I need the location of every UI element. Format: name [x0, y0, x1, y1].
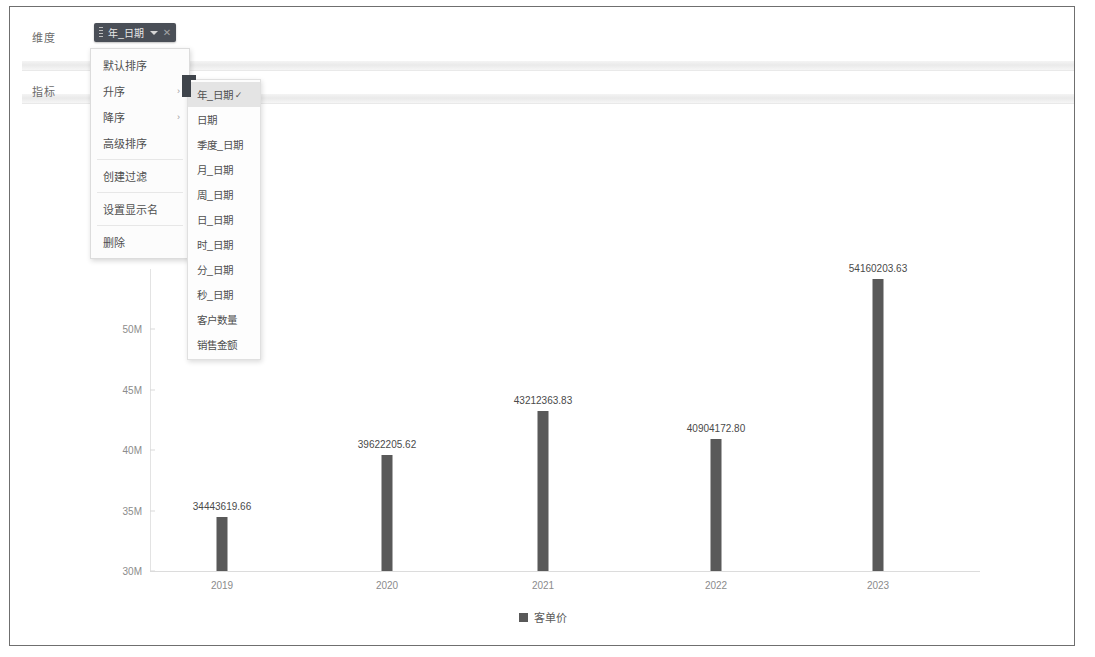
- submenu-item-label: 客户数量: [197, 312, 237, 327]
- menu-separator: [97, 159, 183, 160]
- y-axis-tick-label: 30M: [123, 566, 142, 577]
- check-icon: ✓: [235, 90, 243, 100]
- submenu-item[interactable]: 客户数量: [188, 307, 260, 332]
- x-axis-tick-label: 2023: [867, 580, 889, 591]
- y-axis-tick-label: 35M: [123, 505, 142, 516]
- metric-shelf-label: 指标: [32, 83, 55, 99]
- bar[interactable]: [538, 411, 549, 571]
- y-axis-tick-mark: [150, 571, 155, 572]
- submenu-item-label: 销售金额: [197, 337, 237, 352]
- x-axis-tick-label: 2020: [376, 580, 398, 591]
- submenu-item[interactable]: 季度_日期: [188, 132, 260, 157]
- menu-item[interactable]: 创建过滤: [91, 163, 189, 189]
- menu-item[interactable]: 默认排序: [91, 52, 189, 78]
- menu-item[interactable]: 高级排序: [91, 130, 189, 156]
- submenu-item-label: 日_日期: [197, 212, 233, 227]
- y-axis-tick-label: 40M: [123, 445, 142, 456]
- close-icon[interactable]: ✕: [163, 28, 171, 38]
- menu-item[interactable]: 删除: [91, 229, 189, 255]
- y-axis-tick-mark: [150, 450, 155, 451]
- bar[interactable]: [873, 279, 884, 571]
- dimension-shelf-label: 维度: [32, 29, 55, 45]
- submenu-item[interactable]: 日期: [188, 107, 260, 132]
- bar-value-label: 40904172.80: [687, 423, 745, 434]
- bar-value-label: 43212363.83: [514, 395, 572, 406]
- menu-item-label: 高级排序: [103, 135, 147, 151]
- y-axis-tick-mark: [150, 510, 155, 511]
- menu-item-label: 删除: [103, 234, 125, 250]
- submenu-item[interactable]: 日_日期: [188, 207, 260, 232]
- submenu-item-label: 秒_日期: [197, 287, 233, 302]
- x-axis-tick-label: 2019: [211, 580, 233, 591]
- y-axis-tick-label: 50M: [123, 324, 142, 335]
- submenu-item[interactable]: 周_日期: [188, 182, 260, 207]
- submenu-anchor-marker: [182, 75, 191, 97]
- dimension-field-chip[interactable]: 年_日期 ✕: [94, 23, 176, 42]
- bar[interactable]: [217, 517, 228, 571]
- chevron-right-icon: ›: [177, 112, 180, 122]
- drag-grip-icon[interactable]: [99, 27, 103, 38]
- menu-item-label: 降序: [103, 109, 125, 125]
- field-chip-label: 年_日期: [108, 25, 145, 40]
- submenu-item[interactable]: 秒_日期: [188, 282, 260, 307]
- x-axis-line: [150, 571, 980, 572]
- y-axis-tick-mark: [150, 389, 155, 390]
- field-context-menu[interactable]: 默认排序升序›降序›高级排序创建过滤设置显示名删除: [90, 48, 190, 259]
- x-axis-tick-label: 2021: [532, 580, 554, 591]
- submenu-item-label: 周_日期: [197, 187, 233, 202]
- chart-legend: 客单价: [10, 609, 1075, 625]
- y-axis-line: [150, 269, 151, 571]
- bar-value-label: 34443619.66: [193, 501, 251, 512]
- legend-label: 客单价: [534, 609, 567, 625]
- y-axis-tick-label: 45M: [123, 384, 142, 395]
- field-level-submenu[interactable]: 年_日期✓日期季度_日期月_日期周_日期日_日期时_日期分_日期秒_日期客户数量…: [187, 79, 261, 360]
- menu-separator: [97, 192, 183, 193]
- submenu-item-label: 日期: [197, 112, 217, 127]
- menu-item-label: 默认排序: [103, 57, 147, 73]
- submenu-item-label: 月_日期: [197, 162, 233, 177]
- bar-value-label: 39622205.62: [358, 439, 416, 450]
- bar-value-label: 54160203.63: [849, 263, 907, 274]
- menu-item[interactable]: 升序›: [91, 78, 189, 104]
- submenu-item[interactable]: 月_日期: [188, 157, 260, 182]
- submenu-item[interactable]: 年_日期✓: [188, 82, 260, 107]
- submenu-item[interactable]: 销售金额: [188, 332, 260, 357]
- submenu-item-label: 分_日期: [197, 262, 233, 277]
- submenu-item[interactable]: 时_日期: [188, 232, 260, 257]
- submenu-item-label: 时_日期: [197, 237, 233, 252]
- menu-separator: [97, 225, 183, 226]
- legend-swatch-icon: [519, 613, 528, 622]
- y-axis-tick-mark: [150, 329, 155, 330]
- chevron-right-icon: ›: [177, 86, 180, 96]
- submenu-item[interactable]: 分_日期: [188, 257, 260, 282]
- x-axis-tick-label: 2022: [705, 580, 727, 591]
- chevron-down-icon[interactable]: [150, 31, 158, 35]
- menu-item-label: 设置显示名: [103, 201, 158, 217]
- submenu-item-label: 季度_日期: [197, 137, 243, 152]
- menu-item[interactable]: 降序›: [91, 104, 189, 130]
- bar[interactable]: [382, 455, 393, 571]
- submenu-item-label: 年_日期: [197, 87, 233, 102]
- menu-item-label: 升序: [103, 83, 125, 99]
- app-window: 维度 指标 年_日期 ✕ 默认排序升序›降序›高级排序创建过滤设置显示名删除 年…: [9, 6, 1075, 646]
- menu-item[interactable]: 设置显示名: [91, 196, 189, 222]
- menu-item-label: 创建过滤: [103, 168, 147, 184]
- bar[interactable]: [711, 439, 722, 571]
